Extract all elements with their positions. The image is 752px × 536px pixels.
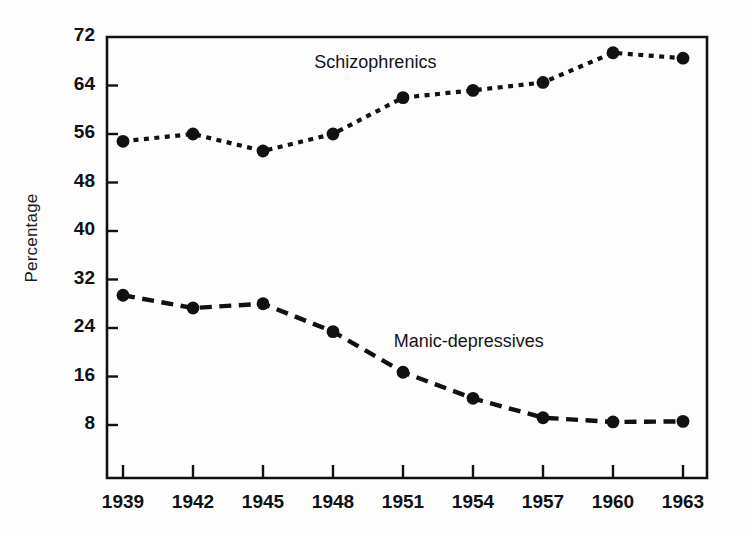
data-point — [397, 91, 410, 104]
data-point — [467, 84, 480, 97]
y-axis-title: Percentage — [22, 178, 42, 298]
x-tick-label: 1957 — [511, 491, 575, 513]
y-tick-label: 40 — [49, 218, 95, 240]
y-tick-label: 24 — [49, 315, 95, 337]
x-tick-label: 1954 — [441, 491, 505, 513]
data-point — [257, 145, 270, 158]
y-tick-label: 16 — [49, 364, 95, 386]
y-tick-label: 32 — [49, 267, 95, 289]
data-point — [117, 135, 130, 148]
y-tick-label: 72 — [49, 24, 95, 46]
x-tick-label: 1939 — [91, 491, 155, 513]
x-tick-label: 1951 — [371, 491, 435, 513]
data-point — [677, 415, 690, 428]
x-tick-label: 1963 — [651, 491, 715, 513]
x-tick-label: 1942 — [161, 491, 225, 513]
plot-frame — [107, 37, 707, 478]
data-point — [607, 416, 620, 429]
data-point — [677, 52, 690, 65]
x-tick-label: 1960 — [581, 491, 645, 513]
x-tick-label: 1945 — [231, 491, 295, 513]
series-label-1: Manic-depressives — [394, 331, 544, 352]
series-line-1 — [123, 295, 683, 422]
y-tick-label: 64 — [49, 73, 95, 95]
y-tick-label: 56 — [49, 121, 95, 143]
data-point — [327, 325, 340, 338]
y-tick-label: 48 — [49, 170, 95, 192]
data-point — [537, 76, 550, 89]
data-point — [187, 128, 200, 141]
x-tick-label: 1948 — [301, 491, 365, 513]
data-point — [607, 46, 620, 59]
data-point — [327, 128, 340, 141]
data-point — [187, 302, 200, 315]
line-chart-plot — [0, 0, 752, 536]
data-point — [257, 297, 270, 310]
data-series-group — [117, 46, 690, 428]
data-point — [467, 392, 480, 405]
data-point — [117, 289, 130, 302]
series-label-0: Schizophrenics — [314, 52, 436, 73]
data-point — [537, 411, 550, 424]
chart-container: Percentage 81624324048566472 19391942194… — [0, 0, 752, 536]
data-point — [397, 366, 410, 379]
y-tick-label: 8 — [49, 412, 95, 434]
